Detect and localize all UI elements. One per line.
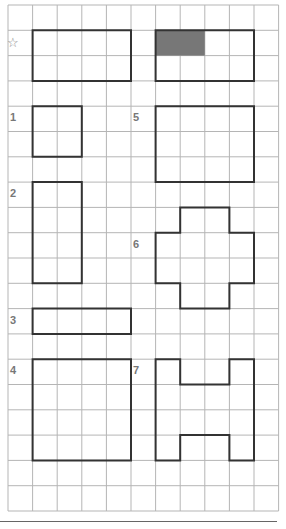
shape-label-4: 4 [10, 364, 16, 376]
shape-label-5: 5 [133, 111, 139, 123]
shape-label-3: 3 [10, 314, 16, 326]
shape-label-2: 2 [10, 187, 16, 199]
grid-worksheet [0, 0, 286, 529]
shape-label-7: 7 [133, 364, 139, 376]
shape-label-6: 6 [133, 238, 139, 250]
star-icon: ☆ [7, 35, 19, 50]
bottom-divider [0, 521, 277, 522]
shaded-area [156, 30, 205, 55]
shape-outlines [33, 30, 254, 460]
shaded-cells [156, 30, 205, 55]
shape-label-1: 1 [10, 111, 16, 123]
